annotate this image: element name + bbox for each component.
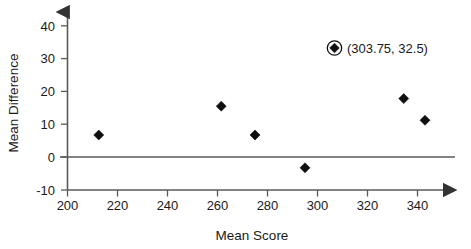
x-tick-label-320: 320: [357, 198, 379, 213]
data-point-diamond-icon: [94, 130, 104, 140]
x-axis-title: Mean Score: [216, 228, 289, 243]
x-tick-label-340: 340: [407, 198, 429, 213]
y-tick-label-0: 0: [48, 150, 55, 165]
x-tick-label-220: 220: [107, 198, 129, 213]
data-point-diamond-icon: [216, 101, 226, 111]
y-tick-label-20: 20: [41, 84, 55, 99]
data-point-group: [94, 94, 430, 173]
data-point-diamond-icon: [300, 163, 310, 173]
x-tick-label-300: 300: [307, 198, 329, 213]
scatter-chart: 40 30 20 10 0 -10 200 220 240 260 280 30…: [0, 0, 471, 249]
data-point-diamond-icon: [250, 130, 260, 140]
y-tick-label-40: 40: [41, 19, 55, 34]
x-tick-label-260: 260: [207, 198, 229, 213]
y-tick-marks: [61, 26, 68, 190]
data-point-diamond-icon: [399, 94, 409, 104]
y-tick-label-30: 30: [41, 51, 55, 66]
data-point-diamond-icon: [420, 115, 430, 125]
y-tick-label-minus10: -10: [36, 183, 55, 198]
annotation-label: (303.75, 32.5): [347, 41, 428, 56]
chart-canvas: 40 30 20 10 0 -10 200 220 240 260 280 30…: [0, 0, 471, 249]
x-tick-label-200: 200: [57, 198, 79, 213]
x-tick-label-240: 240: [157, 198, 179, 213]
y-axis-title: Mean Difference: [6, 54, 21, 153]
annotation-diamond-icon: [330, 43, 340, 53]
annotation-marker: [327, 41, 341, 55]
y-tick-label-10: 10: [41, 117, 55, 132]
x-tick-label-280: 280: [257, 198, 279, 213]
x-tick-marks: [68, 190, 418, 197]
